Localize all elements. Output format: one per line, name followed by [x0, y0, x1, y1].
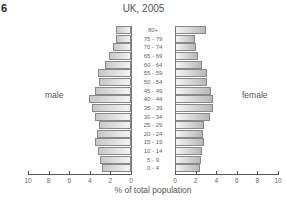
x-tick — [90, 171, 91, 174]
age-group-label: 25 - 29 — [131, 121, 175, 130]
male-bar — [113, 43, 131, 51]
male-x-axis — [28, 174, 132, 175]
x-tick — [69, 171, 70, 174]
x-tick-label: 0 — [123, 177, 139, 184]
male-bar — [95, 138, 131, 146]
female-bar — [175, 69, 207, 77]
female-bar — [175, 61, 202, 69]
x-tick-label: 4 — [208, 177, 224, 184]
female-baseline — [175, 26, 176, 173]
x-tick — [237, 171, 238, 174]
age-group-label: 20 - 24 — [131, 130, 175, 139]
age-group-label: 30 - 34 — [131, 113, 175, 122]
male-bar — [97, 130, 131, 138]
age-group-label: 0 - 4 — [131, 164, 175, 173]
female-bar — [175, 26, 206, 34]
male-bar — [116, 26, 131, 34]
female-bar — [175, 113, 210, 121]
male-bar — [99, 78, 131, 86]
x-tick — [216, 171, 217, 174]
x-tick-label: 6 — [61, 177, 77, 184]
male-bar — [98, 147, 131, 155]
female-label: female — [242, 90, 268, 100]
age-group-label: 10 - 14 — [131, 147, 175, 156]
female-bar — [175, 121, 204, 129]
male-baseline — [131, 26, 132, 173]
male-bar — [99, 121, 131, 129]
x-tick — [175, 171, 176, 174]
male-label: male — [45, 90, 63, 100]
x-tick — [257, 171, 258, 174]
male-bar — [95, 87, 131, 95]
female-bar — [175, 156, 201, 164]
female-x-axis — [175, 174, 279, 175]
age-group-label: 55 - 59 — [131, 69, 175, 78]
age-group-label: 45 - 49 — [131, 87, 175, 96]
x-tick — [28, 171, 29, 174]
age-group-label: 35 - 39 — [131, 104, 175, 113]
x-tick-label: 10 — [20, 177, 36, 184]
age-group-label: 60 - 64 — [131, 61, 175, 70]
age-group-label: 5 - 9 — [131, 156, 175, 165]
x-tick — [110, 171, 111, 174]
x-tick-label: 2 — [188, 177, 204, 184]
female-bar — [175, 35, 195, 43]
female-bar — [175, 130, 203, 138]
age-group-label: 65 - 69 — [131, 52, 175, 61]
age-group-label: 80+ — [131, 26, 175, 35]
x-axis-label: % of total population — [0, 185, 287, 195]
x-tick-label: 10 — [270, 177, 286, 184]
age-group-label: 40 - 44 — [131, 95, 175, 104]
female-bar — [175, 138, 204, 146]
male-bar — [102, 164, 131, 172]
female-bar — [175, 43, 196, 51]
male-bar — [105, 61, 131, 69]
x-tick — [196, 171, 197, 174]
male-bar — [116, 35, 131, 43]
female-bar — [175, 104, 213, 112]
female-bar — [175, 147, 202, 155]
male-bar — [100, 156, 131, 164]
chart-title: UK, 2005 — [0, 3, 287, 14]
age-group-label: 75 - 79 — [131, 35, 175, 44]
male-bar — [95, 113, 131, 121]
female-bar — [175, 78, 207, 86]
female-bar — [175, 52, 198, 60]
x-tick-label: 8 — [249, 177, 265, 184]
age-group-label: 70 - 74 — [131, 43, 175, 52]
female-bar — [175, 87, 211, 95]
x-tick-label: 4 — [82, 177, 98, 184]
x-tick-label: 8 — [41, 177, 57, 184]
male-bar — [92, 104, 131, 112]
male-bar — [98, 69, 131, 77]
male-bar — [89, 95, 131, 103]
x-tick — [278, 171, 279, 174]
male-bar — [109, 52, 131, 60]
x-tick — [131, 171, 132, 174]
age-group-label: 50 - 54 — [131, 78, 175, 87]
x-tick-label: 6 — [229, 177, 245, 184]
x-tick — [49, 171, 50, 174]
x-tick-label: 2 — [102, 177, 118, 184]
x-tick-label: 0 — [167, 177, 183, 184]
age-group-label: 15 - 19 — [131, 138, 175, 147]
female-bar — [175, 95, 213, 103]
